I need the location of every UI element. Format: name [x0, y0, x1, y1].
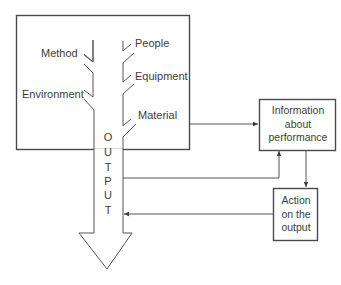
cause-label-method: Method	[41, 47, 78, 59]
action-line-1: Action	[274, 194, 318, 208]
information-line-2: about	[260, 118, 336, 132]
information-line-3: performance	[260, 131, 336, 145]
output-letter-t2: T	[101, 204, 115, 216]
right-bone	[123, 41, 136, 149]
action-line-2: on the	[274, 208, 318, 222]
output-letter-u1: U	[101, 146, 115, 158]
cause-label-environment: Environment	[22, 88, 84, 100]
process-box	[17, 16, 190, 150]
output-letter-u2: U	[101, 189, 115, 201]
arrow-output-to-information	[123, 151, 279, 178]
cause-label-equipment: Equipment	[135, 70, 188, 82]
action-line-3: output	[274, 221, 318, 235]
left-spine	[84, 40, 93, 62]
information-line-1: Information	[260, 104, 336, 118]
information-box-text: Information about performance	[260, 104, 336, 145]
output-letter-o: O	[101, 131, 115, 143]
output-letter-p: P	[101, 175, 115, 187]
output-letter-t1: T	[101, 161, 115, 173]
cause-label-material: Material	[138, 109, 177, 121]
action-box-text: Action on the output	[274, 194, 318, 235]
cause-label-people: People	[135, 37, 169, 49]
